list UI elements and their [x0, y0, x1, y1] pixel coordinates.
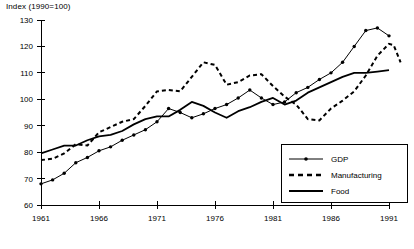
- data-point-marker: [155, 120, 158, 123]
- chart-container: Index (1990=100) 60708090100110120130 19…: [0, 0, 414, 249]
- legend-label: Manufacturing: [331, 171, 382, 180]
- data-point-marker: [329, 71, 332, 74]
- series-line-manufacturing: [41, 44, 401, 160]
- chart-plot: 60708090100110120130 1961196619711976198…: [0, 0, 414, 249]
- x-tick-label: 1981: [264, 214, 282, 223]
- data-point-marker: [51, 178, 54, 181]
- y-axis: 60708090100110120130: [20, 16, 45, 210]
- data-point-marker: [376, 26, 379, 29]
- data-point-marker: [121, 139, 124, 142]
- data-point-marker: [39, 182, 42, 185]
- data-point-marker: [387, 34, 390, 37]
- x-tick-label: 1976: [206, 214, 224, 223]
- data-point-marker: [213, 107, 216, 110]
- y-tick-label: 120: [20, 42, 34, 51]
- data-point-marker: [132, 133, 135, 136]
- legend-label: GDP: [331, 155, 348, 164]
- data-point-marker: [144, 128, 147, 131]
- y-tick-label: 60: [24, 201, 33, 210]
- data-point-marker: [271, 103, 274, 106]
- y-tick-label: 100: [20, 95, 34, 104]
- legend-label: Food: [331, 187, 349, 196]
- x-tick-label: 1986: [322, 214, 340, 223]
- data-point-marker: [341, 61, 344, 64]
- x-tick-label: 1966: [90, 214, 108, 223]
- data-point-marker: [295, 91, 298, 94]
- x-tick-label: 1971: [148, 214, 166, 223]
- data-point-marker: [237, 96, 240, 99]
- data-point-marker: [109, 145, 112, 148]
- data-point-marker: [62, 172, 65, 175]
- x-tick-label: 1991: [380, 214, 398, 223]
- x-tick-label: 1961: [32, 214, 50, 223]
- data-point-marker: [306, 86, 309, 89]
- data-point-marker: [190, 116, 193, 119]
- x-axis: 1961196619711976198119861991: [32, 201, 398, 223]
- y-tick-label: 80: [24, 148, 33, 157]
- y-tick-label: 110: [20, 69, 33, 78]
- y-tick-label: 130: [20, 16, 34, 25]
- data-point-marker: [248, 88, 251, 91]
- data-point-marker: [260, 96, 263, 99]
- data-point-marker: [353, 45, 356, 48]
- data-point-marker: [74, 161, 77, 164]
- chart-legend: GDPManufacturingFood: [281, 144, 407, 202]
- series-line-food: [41, 70, 389, 153]
- data-point-marker: [364, 29, 367, 32]
- data-point-marker: [202, 112, 205, 115]
- data-point-marker: [86, 156, 89, 159]
- y-tick-label: 70: [24, 175, 33, 184]
- data-point-marker: [97, 149, 100, 152]
- data-point-marker: [318, 78, 321, 81]
- data-point-marker: [225, 103, 228, 106]
- data-point-marker: [167, 107, 170, 110]
- y-tick-label: 90: [24, 122, 33, 131]
